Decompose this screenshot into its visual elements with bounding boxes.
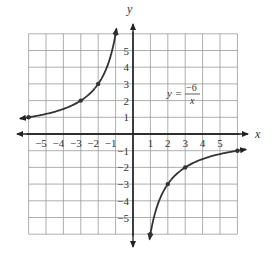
x-tick-label: −3 [70, 137, 82, 149]
equation-numerator: −6 [186, 82, 197, 93]
x-tick-label: 4 [200, 137, 206, 149]
x-tick-label: 2 [165, 137, 171, 149]
y-tick-label: −1 [117, 145, 129, 157]
y-tick-label: −5 [117, 212, 129, 224]
y-tick-label: −3 [117, 178, 129, 190]
curve-right-branch-tail [171, 149, 246, 179]
y-tick-label: 3 [124, 78, 130, 90]
x-tick-label: 3 [182, 137, 188, 149]
x-tick-label: 1 [148, 137, 154, 149]
y-tick-label: 2 [124, 95, 130, 107]
equation-denominator: x [189, 95, 195, 106]
y-tick-label: 1 [124, 111, 130, 123]
hyperbola-chart: −5−4−3−2−112345−5−4−3−2−112345 x y y = −… [0, 0, 274, 256]
y-tick-label: −4 [117, 195, 129, 207]
x-tick-label: −4 [53, 137, 65, 149]
data-point [148, 232, 152, 236]
data-point [79, 98, 83, 102]
x-tick-label: −2 [87, 137, 99, 149]
y-tick-label: 5 [124, 45, 130, 57]
y-tick-label: −2 [117, 161, 129, 173]
x-axis-label: x [254, 127, 261, 141]
data-point [235, 149, 239, 153]
data-point [113, 32, 117, 36]
data-point [183, 165, 187, 169]
x-tick-label: 5 [217, 137, 223, 149]
data-point [96, 82, 100, 86]
y-axis-label: y [126, 2, 133, 16]
equation-annotation: y = −6 x [166, 82, 200, 106]
x-tick-label: −1 [105, 137, 117, 149]
curve-left-branch-tail [20, 88, 95, 118]
y-tick-label: 4 [124, 61, 130, 73]
data-point [166, 182, 170, 186]
axes [17, 24, 248, 247]
data-point [26, 115, 30, 119]
equation-lhs: y = [166, 87, 182, 99]
x-tick-label: −5 [35, 137, 47, 149]
